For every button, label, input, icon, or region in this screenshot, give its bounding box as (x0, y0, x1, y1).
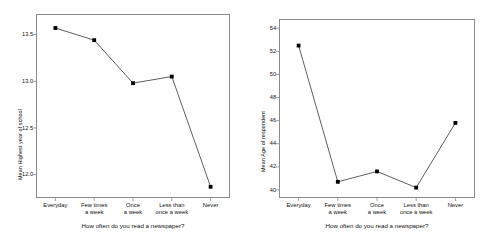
y-axis-tick-label: 42 (270, 163, 276, 169)
data-point-marker (336, 180, 340, 184)
y-axis-tick-label: 48 (270, 94, 276, 100)
data-point-marker (375, 170, 379, 174)
x-axis-tick-label: Never (181, 202, 241, 209)
x-axis-title: How often do you read a newspaper? (13, 222, 253, 229)
y-axis-tick-label: 50 (270, 71, 276, 77)
y-axis-tick-label: 40 (270, 187, 276, 193)
data-point-marker (92, 38, 96, 42)
data-line (55, 28, 210, 187)
x-axis-tick-label: Never (425, 202, 485, 209)
data-point-marker (170, 75, 174, 79)
y-axis-tick-label: 44 (270, 140, 276, 146)
data-line (299, 46, 456, 188)
data-point-marker (297, 44, 301, 48)
y-axis-tick-label: 13.0 (22, 78, 33, 84)
data-point-marker (209, 185, 213, 189)
data-point-marker (131, 81, 135, 85)
x-axis-title: How often do you read a newspaper? (257, 222, 493, 229)
data-point-marker (414, 186, 418, 190)
y-axis-tick-label: 12.5 (22, 125, 33, 131)
y-axis-tick-label: 54 (270, 25, 276, 31)
y-axis-tick-label: 12.0 (22, 171, 33, 177)
y-axis-tick-label: 13.5 (22, 31, 33, 37)
data-point-marker (54, 26, 58, 30)
figure-container: Mean Highest year of school 12.012.513.0… (0, 0, 493, 248)
y-axis-tick-label: 52 (270, 48, 276, 54)
chart-panel-right: Mean Age of respondent 4042444648505254E… (247, 0, 493, 248)
data-point-marker (454, 121, 458, 125)
y-axis-tick-label: 46 (270, 117, 276, 123)
chart-panel-left: Mean Highest year of school 12.012.513.0… (0, 0, 246, 248)
